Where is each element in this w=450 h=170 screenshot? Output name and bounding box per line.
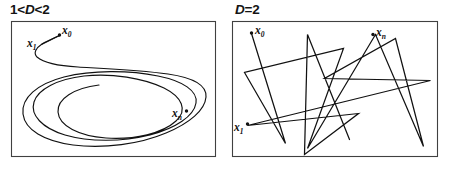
point-label-xn: xn — [171, 107, 182, 122]
point-dot-x1 — [246, 122, 249, 125]
panel-left-plot: x0 x1 xn — [0, 0, 225, 170]
panel-left: 1<D<2 x0 x1 xn — [0, 0, 225, 170]
panel-right-frame — [233, 22, 438, 157]
point-label-x1: x1 — [233, 121, 244, 136]
point-dot-x0 — [58, 33, 61, 36]
point-label-x1: x1 — [26, 37, 37, 52]
point-dot-xn — [371, 33, 374, 36]
point-dot-xn — [185, 109, 188, 112]
point-label-x0: x0 — [254, 24, 265, 39]
point-dot-x0 — [250, 31, 253, 34]
panel-right-plot: x0 xn x1 — [225, 0, 450, 170]
random-walk-trajectory — [245, 34, 431, 155]
spiral-trajectory-outer — [23, 36, 206, 147]
panel-right: D=2 x0 xn x1 — [225, 0, 450, 170]
spiral-start-stub — [42, 36, 60, 45]
point-label-x0: x0 — [61, 24, 72, 39]
fractal-dimension-figure: 1<D<2 x0 x1 xn D=2 — [0, 0, 450, 170]
